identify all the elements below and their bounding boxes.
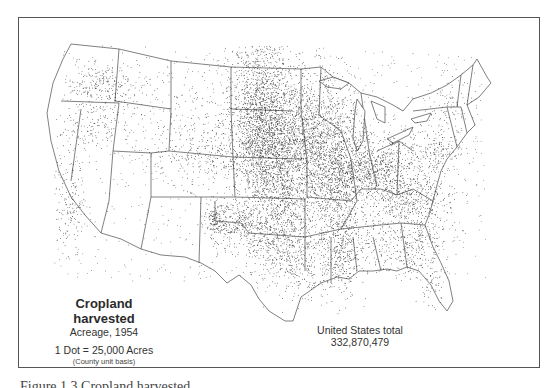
- legend-title: Cropland harvested: [44, 296, 164, 326]
- legend-scale: 1 Dot = 25,000 Acres: [44, 344, 164, 357]
- us-total-label: United States total: [300, 324, 420, 336]
- us-total-value: 332,870,479: [300, 336, 420, 348]
- figure-caption: Figure 1.3 Cropland harvested: [20, 380, 190, 388]
- legend-subtitle: Acreage, 1954: [44, 326, 164, 339]
- state-boundaries: [47, 44, 491, 321]
- us-outline: [47, 44, 491, 321]
- legend-basis: (County unit basis): [44, 357, 164, 367]
- map-legend: Cropland harvested Acreage, 1954 1 Dot =…: [44, 296, 164, 367]
- us-total: United States total 332,870,479: [300, 324, 420, 348]
